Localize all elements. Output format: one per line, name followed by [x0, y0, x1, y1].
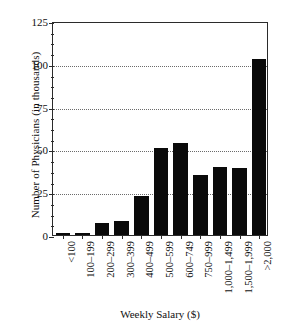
x-tick-label: 400–499	[144, 241, 155, 278]
bar	[114, 221, 129, 235]
y-tick-label: 25	[37, 188, 48, 199]
y-tick-label: 75	[37, 102, 48, 113]
bar	[154, 148, 169, 235]
bar	[95, 223, 110, 235]
plot-area	[52, 22, 268, 236]
bar	[134, 196, 149, 235]
x-tick-label: 100–199	[85, 241, 96, 278]
x-tick-label: 1,500–1,999	[243, 241, 254, 294]
x-axis-tick-labels: <100100–199200–299300–399400–499500–5996…	[52, 236, 268, 306]
x-tick-label: 500–599	[164, 241, 175, 278]
y-axis-tick-labels: 0255075100125	[0, 0, 50, 328]
x-tick-label: <100	[66, 241, 77, 263]
bar	[232, 168, 247, 235]
y-tick-label: 100	[32, 59, 49, 70]
bar	[213, 167, 228, 235]
bar	[193, 175, 208, 235]
x-tick-label: 300–399	[125, 241, 136, 278]
x-tick-label: 600–749	[184, 241, 195, 278]
plot-inner	[53, 23, 267, 235]
chart-figure: Number of Physicians (in thousands) 0255…	[0, 0, 282, 328]
y-tick-label: 125	[32, 17, 49, 28]
bar	[252, 59, 267, 235]
bar-series	[53, 23, 267, 235]
x-tick-label: 1,000–1,499	[223, 241, 234, 294]
y-tick-label: 0	[43, 231, 49, 242]
x-tick-label: >2,000	[262, 241, 273, 271]
x-axis-title: Weekly Salary ($)	[52, 308, 268, 320]
x-tick-label: 200–299	[105, 241, 116, 278]
bar	[173, 143, 188, 235]
x-tick-label: 750–999	[203, 241, 214, 278]
y-tick-label: 50	[37, 145, 48, 156]
